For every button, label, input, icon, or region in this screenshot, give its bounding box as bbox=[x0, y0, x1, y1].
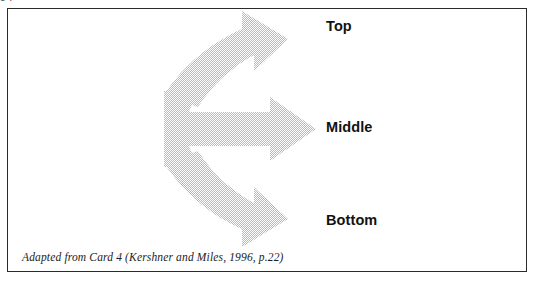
branching-arrow-diagram: Top Middle Bottom bbox=[8, 9, 526, 271]
label-middle: Middle bbox=[326, 119, 373, 135]
figure-box: Top Middle Bottom Adapted from Card 4 (K… bbox=[7, 8, 527, 272]
clipped-text-above: g p bbox=[0, 0, 537, 6]
clipped-text-above-content: g p bbox=[0, 0, 16, 1]
arrow-graphic bbox=[138, 9, 328, 249]
label-bottom: Bottom bbox=[326, 212, 377, 228]
label-top: Top bbox=[326, 18, 352, 34]
figure-caption: Adapted from Card 4 (Kershner and Miles,… bbox=[22, 251, 284, 263]
